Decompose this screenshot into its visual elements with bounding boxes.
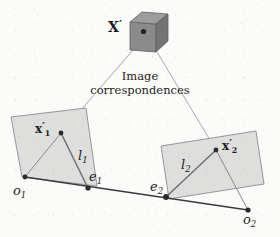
world-point-cube xyxy=(130,12,168,52)
camera-center-right-base: o xyxy=(243,212,251,227)
camera-center-left-sub: 1 xyxy=(21,190,26,200)
epipole-right-label: e2 xyxy=(150,180,163,195)
epipolar-line-left-label: l1 xyxy=(78,149,88,164)
camera-center-left-label: o1 xyxy=(13,184,26,199)
point-e1 xyxy=(85,185,90,190)
camera-center-right-sub: 2 xyxy=(251,219,256,229)
left-image-plane xyxy=(11,108,97,186)
world-point-label-base: X xyxy=(108,19,119,35)
ray-to-right-image xyxy=(157,52,216,150)
world-point-label-prime: ′ xyxy=(119,17,122,31)
image-point-left-sub: 1 xyxy=(45,129,51,138)
point-x2 xyxy=(214,148,219,153)
epipole-right-base: e xyxy=(150,179,158,194)
epipolar-line-left-sub: 1 xyxy=(82,155,87,165)
epipolar-line-right-label: l2 xyxy=(181,158,191,173)
epipolar-geometry-figure: X′ Image correspondences x′1 x′2 l1 l2 e… xyxy=(0,0,280,237)
point-e2 xyxy=(163,194,169,200)
epipole-right-sub: 2 xyxy=(158,186,163,196)
image-point-left-label: x′1 xyxy=(35,121,50,138)
point-o1 xyxy=(23,175,28,180)
right-image-plane xyxy=(161,131,264,199)
camera-center-right-label: o2 xyxy=(243,213,256,228)
caption: Image correspondences xyxy=(88,70,192,97)
cube-front-face xyxy=(130,22,156,52)
epipolar-line-right-sub: 2 xyxy=(185,164,190,174)
image-point-right-label: x′2 xyxy=(222,138,237,155)
point-x1 xyxy=(59,131,64,136)
caption-line-2: correspondences xyxy=(88,84,192,98)
cube-center-dot xyxy=(141,29,146,34)
epipole-left-base: e xyxy=(89,169,97,184)
epipole-left-label: e1 xyxy=(89,170,102,185)
camera-center-left-base: o xyxy=(13,183,21,198)
caption-line-1: Image xyxy=(88,70,192,84)
epipole-left-sub: 1 xyxy=(97,176,102,186)
image-point-right-sub: 2 xyxy=(232,146,238,155)
world-point-label: X′ xyxy=(108,19,122,34)
diagram-canvas xyxy=(0,0,280,237)
